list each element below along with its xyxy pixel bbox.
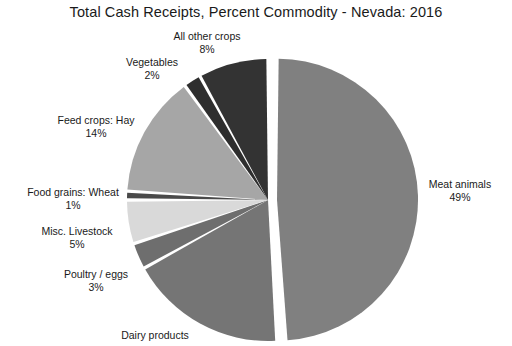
slice-label-feed-crops-hay: Feed crops: Hay 14% (32, 114, 160, 140)
slice-label-percent: 3% (42, 281, 150, 294)
slice-label-percent: 1% (8, 199, 138, 212)
slice-label-food-grains-wheat: Food grains: Wheat 1% (8, 186, 138, 212)
slice-label-name: All other crops (152, 30, 262, 43)
slice-label-name: Meat animals (412, 178, 508, 191)
slice-label-all-other-crops: All other crops 8% (152, 30, 262, 56)
slice-label-name: Poultry / eggs (42, 268, 150, 281)
slice-label-percent: 5% (18, 238, 136, 251)
slice-label-name: Dairy products (96, 329, 214, 342)
slice-label-vegetables: Vegetables 2% (104, 56, 200, 82)
slice-label-misc-livestock: Misc. Livestock 5% (18, 225, 136, 251)
slice-label-percent: 8% (152, 43, 262, 56)
pie-slice-group (127, 59, 418, 341)
slice-label-name: Food grains: Wheat (8, 186, 138, 199)
slice-label-percent: 2% (104, 69, 200, 82)
slice-label-dairy-products: Dairy products (96, 329, 214, 342)
slice-label-poultry-eggs: Poultry / eggs 3% (42, 268, 150, 294)
slice-label-name: Misc. Livestock (18, 225, 136, 238)
pie-slice-meat-animals[interactable] (277, 59, 418, 341)
slice-label-name: Vegetables (104, 56, 200, 69)
slice-label-meat-animals: Meat animals 49% (412, 178, 508, 204)
slice-label-percent: 14% (32, 127, 160, 140)
slice-label-name: Feed crops: Hay (32, 114, 160, 127)
slice-label-percent: 49% (412, 191, 508, 204)
pie-chart-figure: Total Cash Receipts, Percent Commodity -… (0, 0, 512, 346)
